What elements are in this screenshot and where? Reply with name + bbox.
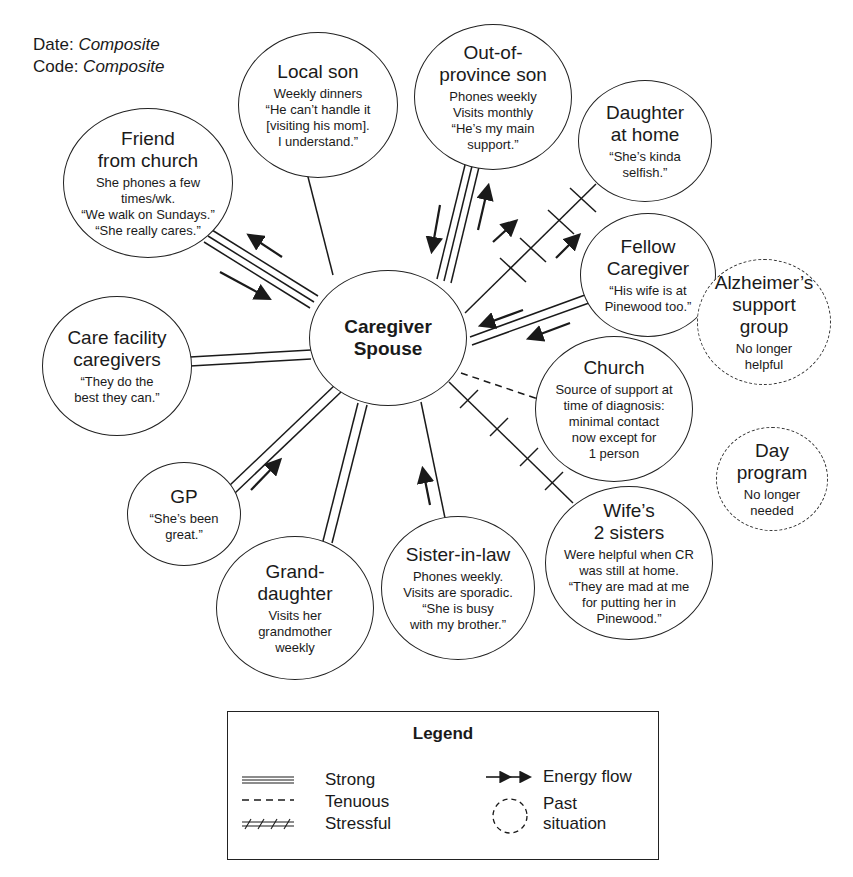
tie-gp bbox=[229, 385, 341, 493]
legend-tenuous-label: Tenuous bbox=[325, 792, 389, 812]
node-wifes-2-sisters: Wife’s 2 sisters Were helpful when CR wa… bbox=[545, 486, 713, 640]
code-value: Composite bbox=[83, 57, 164, 76]
node-title: Local son bbox=[277, 61, 358, 83]
node-day-program: Day program No longer needed bbox=[716, 427, 828, 531]
node-title: Sister-in-law bbox=[406, 544, 511, 566]
node-fellow-caregiver: Fellow Caregiver “His wife is at Pinewoo… bbox=[580, 213, 716, 337]
node-description: No longer helpful bbox=[736, 341, 792, 373]
node-daughter-at-home: Daughter at home “She’s kinda selfish.” bbox=[578, 80, 712, 202]
legend-stressful-label: Stressful bbox=[325, 814, 391, 834]
node-description: “She’s kinda selfish.” bbox=[609, 149, 680, 181]
code-line: Code: Composite bbox=[33, 56, 164, 77]
node-description: “She’s been great.” bbox=[149, 511, 218, 543]
node-title: Wife’s 2 sisters bbox=[594, 500, 665, 544]
node-description: Weekly dinners “He can’t handle it [visi… bbox=[266, 86, 371, 150]
node-care-facility-caregivers: Care facility caregivers “They do the be… bbox=[42, 296, 192, 436]
node-description: She phones a few times/wk. “We walk on S… bbox=[81, 175, 214, 239]
node-alzheimers-support-group: Alzheimer’s support group No longer help… bbox=[697, 259, 831, 385]
date-value: Composite bbox=[78, 35, 159, 54]
legend-title: Legend bbox=[228, 724, 658, 744]
date-label: Date: bbox=[33, 35, 74, 54]
tie-granddaughter bbox=[323, 403, 367, 543]
arrow-from-friend bbox=[220, 272, 268, 298]
node-title: Grand- daughter bbox=[257, 561, 332, 605]
node-local-son: Local son Weekly dinners “He can’t handl… bbox=[238, 32, 398, 178]
node-description: “They do the best they can.” bbox=[74, 374, 159, 406]
arrow-from-sister-in-law bbox=[423, 470, 430, 505]
code-label: Code: bbox=[33, 57, 78, 76]
arrow-to-out-of-province-son bbox=[478, 187, 488, 230]
tie-friend-from-church bbox=[204, 230, 318, 308]
node-description: “His wife is at Pinewood too.” bbox=[605, 283, 692, 315]
node-description: Were helpful when CR was still at home. … bbox=[564, 547, 694, 627]
node-description: Source of support at time of diagnosis: … bbox=[555, 382, 672, 462]
tie-out-of-province-son bbox=[437, 165, 479, 283]
node-title: GP bbox=[170, 486, 197, 508]
node-friend-from-church: Friend from church She phones a few time… bbox=[63, 108, 233, 258]
arrow-from-fellow-caregiver-1 bbox=[482, 310, 523, 325]
node-description: Visits her grandmother weekly bbox=[258, 608, 332, 656]
node-caregiver-spouse: Caregiver Spouse bbox=[309, 270, 467, 406]
tie-fellow-caregiver bbox=[470, 295, 589, 345]
node-title: Church bbox=[583, 357, 644, 379]
node-title: Alzheimer’s support group bbox=[715, 272, 814, 338]
date-line: Date: Composite bbox=[33, 34, 160, 55]
arrow-from-fellow-caregiver-2 bbox=[530, 323, 570, 338]
node-title: Care facility caregivers bbox=[67, 327, 166, 371]
legend-strong-label: Strong bbox=[325, 770, 375, 790]
node-church: Church Source of support at time of diag… bbox=[535, 336, 693, 482]
node-description: Phones weekly Visits monthly “He’s my ma… bbox=[449, 89, 536, 153]
node-title: Friend from church bbox=[98, 128, 198, 172]
node-title: Day program bbox=[737, 440, 808, 484]
arrow-to-daughter-2 bbox=[556, 236, 578, 258]
tie-sister-in-law bbox=[421, 402, 445, 518]
legend-past-label: Past situation bbox=[543, 794, 606, 834]
tie-care-facility bbox=[190, 350, 311, 366]
node-granddaughter: Grand- daughter Visits her grandmother w… bbox=[216, 536, 374, 680]
node-description: No longer needed bbox=[744, 487, 800, 519]
legend-box: Legend Strong Tenuous Stressful Energy f… bbox=[227, 711, 659, 860]
arrow-from-out-of-province-son bbox=[432, 205, 440, 250]
arrow-to-daughter-1 bbox=[493, 222, 515, 242]
legend-energy-label: Energy flow bbox=[543, 767, 632, 787]
node-title: Out-of- province son bbox=[439, 42, 547, 86]
tie-local-son bbox=[307, 173, 333, 275]
node-sister-in-law: Sister-in-law Phones weekly. Visits are … bbox=[381, 516, 535, 660]
node-title: Caregiver Spouse bbox=[344, 316, 432, 360]
node-description: Phones weekly. Visits are sporadic. “She… bbox=[403, 569, 513, 633]
node-title: Fellow Caregiver bbox=[607, 236, 689, 280]
node-out-of-province-son: Out-of- province son Phones weekly Visit… bbox=[414, 24, 572, 170]
arrow-to-friend bbox=[250, 236, 282, 257]
node-title: Daughter at home bbox=[606, 102, 684, 146]
node-gp: GP “She’s been great.” bbox=[127, 462, 241, 566]
